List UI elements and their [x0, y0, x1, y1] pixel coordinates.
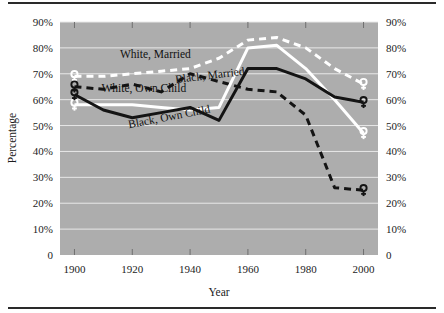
ytick-label-left-10: 10%: [33, 223, 53, 235]
ytick-label-right-70: 70%: [386, 68, 406, 80]
ytick-label-left-50: 50%: [33, 120, 53, 132]
xtick-label-1980: 1980: [295, 263, 318, 275]
ytick-label-left-0: 0: [48, 249, 54, 261]
ytick-label-right-40: 40%: [386, 145, 406, 157]
ytick-label-left-80: 80%: [33, 42, 53, 54]
ytick-label-left-70: 70%: [33, 68, 53, 80]
ytick-label-left-40: 40%: [33, 145, 53, 157]
xtick-label-2000: 2000: [353, 263, 376, 275]
y-axis-tick-labels-left: 010%20%30%40%50%60%70%80%90%: [33, 16, 54, 261]
ytick-label-left-20: 20%: [33, 197, 53, 209]
ytick-label-right-10: 10%: [386, 223, 406, 235]
x-axis-title: Year: [208, 286, 229, 298]
ytick-label-right-30: 30%: [386, 171, 406, 183]
x-axis-tick-labels: 190019201940196019802000: [63, 263, 375, 275]
xtick-label-1960: 1960: [237, 263, 260, 275]
xtick-label-1940: 1940: [179, 263, 202, 275]
ytick-label-left-90: 90%: [33, 16, 53, 28]
ytick-label-right-0: 0: [386, 249, 392, 261]
ytick-label-right-90: 90%: [386, 16, 406, 28]
ytick-label-right-80: 80%: [386, 42, 406, 54]
ytick-label-right-60: 60%: [386, 94, 406, 106]
ytick-label-left-60: 60%: [33, 94, 53, 106]
line-chart: 010%20%30%40%50%60%70%80%90% 010%20%30%4…: [0, 0, 444, 313]
y-axis-tick-labels-right: 010%20%30%40%50%60%70%80%90%: [386, 16, 406, 261]
chart-plot-wrapper: 010%20%30%40%50%60%70%80%90% 010%20%30%4…: [0, 0, 444, 313]
y-axis-title: Percentage: [6, 113, 19, 163]
figure-container: 010%20%30%40%50%60%70%80%90% 010%20%30%4…: [0, 0, 444, 313]
ytick-label-left-30: 30%: [33, 171, 53, 183]
series-label-white-married: White, Married: [120, 48, 191, 61]
ytick-label-right-20: 20%: [386, 197, 406, 209]
ytick-label-right-50: 50%: [386, 120, 406, 132]
xtick-label-1900: 1900: [63, 263, 86, 275]
xtick-label-1920: 1920: [121, 263, 144, 275]
series-label-white-own-child: White, Own Child: [102, 82, 187, 95]
